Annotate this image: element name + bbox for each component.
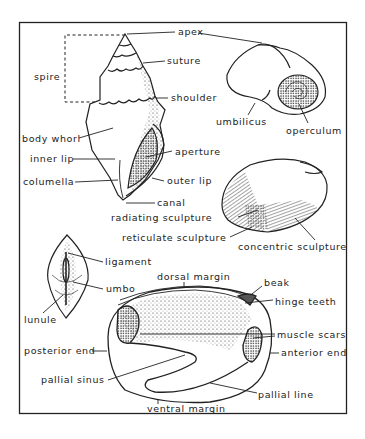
label-lunule: lunule [24,315,57,325]
label-apex: apex [178,27,204,37]
gastropod-high-spire-drawing [65,34,165,200]
label-ligament: ligament [105,257,152,267]
label-muscle-scars: muscle scars [277,330,346,340]
bivalve-dorsal-drawing [48,235,89,318]
label-aperture: aperture [175,147,221,157]
label-posterior-end: posterior end [24,346,95,356]
label-beak: beak [264,278,290,288]
label-ventral-margin: ventral margin [147,404,226,414]
label-inner-lip: inner lip [30,154,74,164]
label-pallial-line: pallial line [258,390,314,400]
label-pallial-sinus: pallial sinus [41,375,105,385]
label-spire: spire [34,72,60,82]
label-dorsal-margin: dorsal margin [157,272,230,282]
label-radiating-sculpture: radiating sculpture [111,213,212,223]
bivalve-interior-drawing [108,286,272,403]
label-suture: suture [167,56,201,66]
label-concentric-sculpture: concentric sculpture [238,242,347,252]
label-anterior-end: anterior end [281,348,347,358]
label-shoulder: shoulder [171,93,217,103]
label-columella: columella [23,177,74,187]
label-reticulate-sculpture: reticulate sculpture [122,233,226,243]
label-outer-lip: outer lip [167,176,212,186]
label-umbo: umbo [106,284,136,294]
bivalve-exterior-drawing [222,159,327,232]
gastropod-low-spire-drawing [227,44,326,114]
shell-anatomy-diagram: apex suture spire shoulder body whorl in… [0,0,365,439]
label-canal: canal [157,198,186,208]
label-hinge-teeth: hinge teeth [275,297,336,307]
label-operculum: operculum [286,126,342,136]
label-body-whorl: body whorl [22,134,81,144]
label-umbilicus: umbilicus [216,117,267,127]
